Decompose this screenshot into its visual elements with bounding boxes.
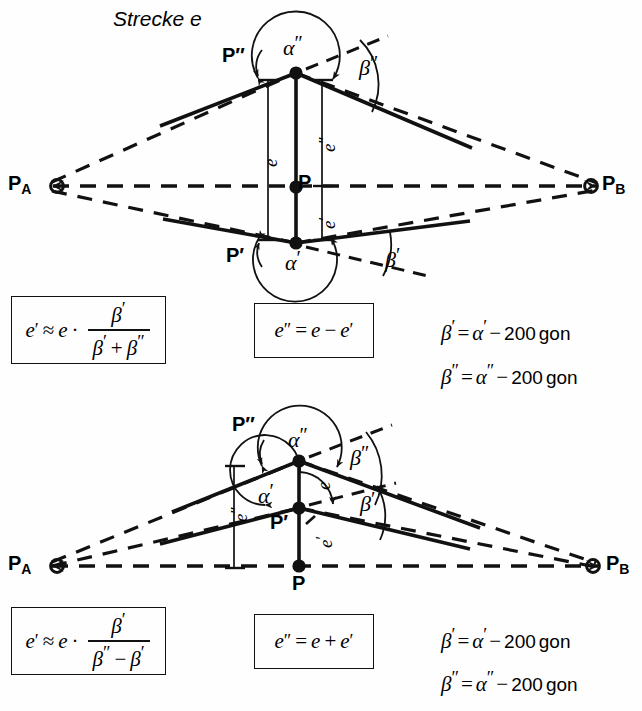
label-e-prime-bottom: e′	[313, 537, 335, 548]
label-e-double-prime-bottom: e″	[228, 507, 250, 522]
prime-mark: ′	[270, 480, 273, 502]
e-glyph: e	[318, 221, 339, 229]
label-p-prime-bottom: P′	[270, 512, 288, 532]
equals-operator: =	[291, 629, 311, 654]
double-prime-mark: ″	[295, 32, 302, 54]
pa-base: P	[8, 172, 21, 194]
approx-operator: ≈	[39, 318, 59, 343]
alpha-glyph: α	[472, 321, 483, 345]
pb-base: P	[606, 552, 619, 574]
minus-operator: −	[493, 365, 511, 389]
term-a-e: e	[311, 318, 320, 343]
formula-box-bottom-middle: e″ = e + e′	[254, 614, 374, 669]
double-prime-mark: ″	[315, 137, 334, 143]
prime-mark: ′	[315, 218, 334, 221]
term-b-e: e	[340, 318, 349, 343]
beta-glyph: β	[350, 445, 361, 470]
beta-glyph: β	[441, 672, 451, 696]
double-prime-mark: ″	[227, 507, 246, 513]
plus-operator: +	[107, 336, 127, 360]
ray-beta-prime-extension	[306, 247, 432, 277]
gon-unit: gon	[536, 631, 571, 652]
minus-operator: −	[493, 672, 511, 696]
factor-e: e	[58, 318, 67, 343]
alpha-glyph: α	[476, 365, 487, 389]
lhs-e: e	[274, 629, 283, 654]
equation-beta-prime-gon-top: β′=α′−200gon	[441, 317, 570, 346]
beta-glyph-b: β	[130, 647, 140, 671]
pa-sub: A	[21, 561, 31, 577]
dot-p-prime	[292, 501, 305, 514]
e-glyph: e	[313, 482, 334, 490]
prime-mark: ′	[396, 244, 399, 266]
label-pa-top: PA	[8, 173, 31, 196]
beta-glyph: β	[359, 55, 370, 80]
e-glyph: e	[230, 514, 251, 522]
minus-operator: −	[486, 629, 504, 653]
approx-operator: ≈	[39, 629, 59, 654]
label-p-double-prime-top: P″	[222, 45, 245, 65]
double-prime-mark: ″	[300, 424, 307, 446]
formula-box-bottom-left: e′ ≈ e · β′ β″−β′	[11, 607, 166, 675]
equals-operator: =	[458, 365, 476, 389]
pb-sub: B	[615, 181, 625, 197]
pa-base: P	[8, 552, 21, 574]
prime-mark: ′	[122, 299, 126, 319]
dot-p-double-prime	[292, 454, 305, 467]
double-prime-mark: ″	[451, 668, 458, 688]
dot-p-double-prime	[289, 66, 302, 79]
prime-mark: ′	[122, 610, 126, 630]
label-e-prime-top: e′	[316, 218, 338, 229]
hook-p-double-prime	[260, 440, 264, 464]
e-glyph: e	[260, 159, 281, 167]
double-prime-mark-b: ″	[137, 332, 145, 352]
double-prime-mark: ″	[284, 320, 292, 341]
term-b-e: e	[340, 629, 349, 654]
minus-operator: −	[110, 647, 130, 671]
formula-box-top-middle: e″ = e − e′	[254, 303, 374, 358]
endpoint-pb-marker	[586, 560, 599, 573]
label-alpha-prime-top: α′	[285, 248, 300, 274]
hook-p-double-prime	[256, 50, 262, 76]
prime-mark: ′	[350, 320, 354, 341]
equals-operator: =	[458, 672, 476, 696]
prime-mark-b: ′	[141, 643, 145, 663]
double-prime-mark: ″	[451, 361, 458, 381]
prime-mark: ′	[350, 631, 354, 652]
measure-e-prime	[306, 516, 315, 524]
equals-operator: =	[454, 321, 472, 345]
measure-e-prime	[313, 186, 333, 240]
alpha-glyph: α	[285, 250, 297, 275]
alpha-glyph: α	[288, 427, 300, 452]
beta-glyph: β	[360, 491, 371, 516]
beta-glyph-a: β	[92, 647, 102, 671]
double-prime-mark: ″	[370, 52, 377, 74]
beta-glyph: β	[385, 247, 396, 272]
fraction: β′ β′+β″	[86, 299, 152, 361]
pb-base: P	[602, 172, 615, 194]
sightline-pdd-to-pb	[296, 73, 597, 183]
label-pb-top: PB	[602, 173, 625, 196]
alpha-glyph: α	[472, 629, 483, 653]
equals-operator: =	[291, 318, 311, 343]
pb-sub: B	[619, 561, 629, 577]
gon-value: 200	[511, 674, 543, 695]
gon-value: 200	[504, 631, 536, 652]
label-alpha-prime-bottom: α′	[258, 481, 273, 507]
double-prime-mark: ″	[284, 631, 292, 652]
numerator: β′	[105, 299, 131, 329]
double-prime-mark: ″	[361, 442, 368, 464]
denominator: β′+β″	[88, 331, 148, 361]
equation-beta-prime-gon-bottom: β′=α′−200gon	[441, 625, 570, 654]
equation-beta-double-prime-gon-top: β″=α″−200gon	[441, 361, 578, 390]
formula-e-double-prime-bottom: e″ = e + e′	[274, 629, 353, 654]
minus-operator: −	[486, 321, 504, 345]
label-pb-bottom: PB	[606, 553, 629, 576]
gon-unit: gon	[543, 367, 578, 388]
sightline-pd-to-pb	[296, 190, 597, 243]
top-figure	[51, 11, 598, 301]
beta-glyph: β	[441, 321, 451, 345]
e-glyph: e	[315, 540, 336, 548]
lhs-e: e	[25, 629, 34, 654]
equation-beta-double-prime-gon-bottom: β″=α″−200gon	[441, 668, 578, 697]
